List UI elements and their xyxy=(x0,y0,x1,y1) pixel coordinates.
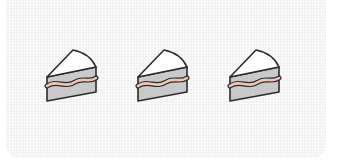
cake-slice-icon xyxy=(43,47,107,105)
cake-slice-icon xyxy=(226,47,290,105)
image-panel xyxy=(6,0,326,158)
cake-slice-icon xyxy=(134,47,198,105)
